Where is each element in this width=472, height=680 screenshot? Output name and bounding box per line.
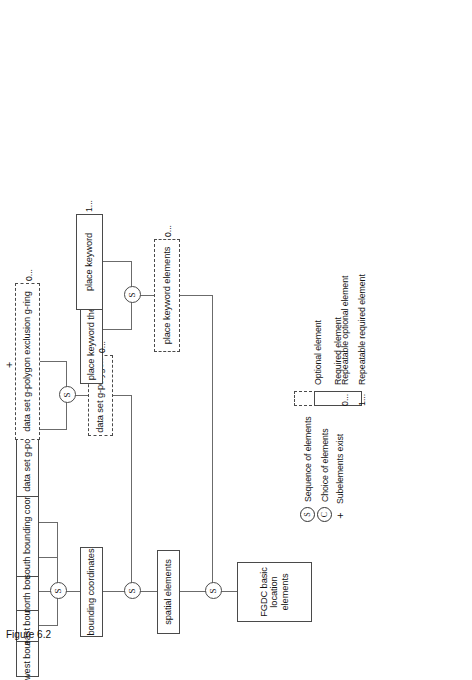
legend-row-repeatable-optional: 0... Repeatable optional element [340, 276, 350, 406]
legend-label: Choice of elements [320, 428, 330, 502]
junction-symbol: S [53, 589, 63, 594]
figure-caption: Figure 6.2 [6, 629, 51, 640]
legend-label: Repeatable optional element [340, 276, 350, 385]
connector-bus-to-placekw-elements [180, 295, 213, 296]
junction-spatial-sequence: S [124, 583, 141, 600]
connector-bus-to-thesaurus [103, 329, 132, 330]
legend-row-choice: C Choice of elements [317, 428, 332, 522]
legend-row-sequence: S Sequence of elements [300, 416, 315, 522]
connector-bus-to-exclusion-gring [39, 361, 67, 362]
junction-symbol: S [127, 293, 137, 298]
required-element-swatch [314, 391, 362, 406]
multiplicity-place-keyword-elements: 0... [163, 225, 173, 237]
junction-bounding-sequence: S [50, 583, 67, 600]
legend-label: Sequence of elements [303, 416, 313, 502]
junction-symbol: S [62, 393, 72, 398]
repeatable-required-glyph: 1... [357, 389, 367, 406]
legend-label: Subelements exist [335, 434, 345, 504]
node-label: place keyword [84, 233, 94, 291]
node-place-keyword[interactable]: place keyword [76, 214, 103, 310]
connector-spatial-bus [131, 396, 132, 592]
node-label: FGDC basiclocation elements [259, 565, 290, 619]
node-label: spatial elements [163, 559, 173, 625]
connector-bus-to-west [39, 625, 58, 626]
node-spatial-elements[interactable]: spatial elements [157, 550, 180, 634]
connector-bus-to-south [39, 522, 58, 523]
connector-bus-to-outer-gring [39, 429, 67, 430]
node-data-set-g-polygon-exclusion-g-ring[interactable]: data set g-polygon exclusion g-ring [15, 283, 40, 440]
node-place-keyword-elements[interactable]: place keyword elements [154, 239, 180, 352]
operator-outer-g-ring-plus: + [4, 362, 15, 368]
legend-row-repeatable-required: 1... Repeatable required element [357, 274, 367, 406]
sequence-icon: S [300, 507, 315, 522]
junction-symbol: S [127, 589, 137, 594]
junction-gpolygon-sequence: S [59, 387, 76, 404]
repeatable-optional-glyph: 0... [340, 389, 350, 406]
connector-bus-to-place-keyword [103, 261, 132, 262]
junction-placekw-sequence: S [124, 287, 141, 304]
multiplicity-data-set-g-polygon: 0... [97, 341, 107, 353]
legend-label: Repeatable required element [357, 274, 367, 385]
multiplicity-exclusion-g-ring: 0... [24, 269, 34, 281]
node-label: bounding coordinates [86, 549, 96, 636]
multiplicity-place-keyword: 1... [84, 200, 94, 212]
sequence-symbol: S [303, 512, 312, 516]
legend-row-subelements: + Subelements exist [334, 434, 346, 522]
node-label: place keyword elements [162, 247, 172, 345]
node-bounding-coordinates[interactable]: bounding coordinates [80, 547, 103, 637]
connector-bounding-bus [57, 523, 58, 626]
node-fgdc-basic-location-elements[interactable]: FGDC basiclocation elements [237, 562, 312, 622]
plus-icon: + [334, 509, 346, 522]
choice-icon: C [317, 507, 332, 522]
choice-symbol: C [320, 512, 329, 517]
node-label: data set g-polygon exclusion g-ring [22, 291, 32, 432]
legend: S Sequence of elements C Choice of eleme… [300, 222, 420, 522]
connector-bus-to-north [39, 557, 58, 558]
junction-root-sequence: S [205, 583, 222, 600]
junction-symbol: S [208, 589, 218, 594]
connector-root-bus [212, 296, 213, 592]
legend-row-required-element: Required element [314, 317, 362, 406]
